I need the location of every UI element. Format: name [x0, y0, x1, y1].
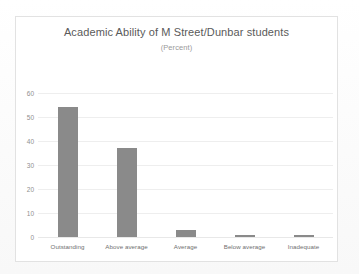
x-axis-labels: OutstandingAbove averageAverageBelow ave…	[38, 243, 333, 250]
x-axis-label: Below average	[215, 243, 274, 250]
y-axis-tick-label: 40	[27, 138, 34, 145]
y-axis-tick-label: 30	[27, 162, 34, 169]
x-axis-label: Outstanding	[38, 243, 97, 250]
y-axis-tick-label: 10	[27, 210, 34, 217]
y-axis-tick-label: 20	[27, 186, 34, 193]
bar-series	[38, 93, 333, 237]
chart-subtitle: (Percent)	[16, 43, 337, 52]
bar-average	[176, 230, 196, 237]
bar-inadequate	[294, 235, 314, 237]
chart-frame: Academic Ability of M Street/Dunbar stud…	[15, 16, 338, 262]
bar-slot	[97, 93, 156, 237]
y-axis-tick-label: 50	[27, 114, 34, 121]
bar-above-average	[117, 148, 137, 237]
x-axis-label: Above average	[97, 243, 156, 250]
x-axis-label: Inadequate	[274, 243, 333, 250]
chart-page: Academic Ability of M Street/Dunbar stud…	[0, 0, 359, 274]
plot-area: 0102030405060	[38, 93, 333, 237]
bar-outstanding	[58, 107, 78, 237]
chart-title-block: Academic Ability of M Street/Dunbar stud…	[16, 25, 337, 52]
bar-slot	[156, 93, 215, 237]
bar-slot	[38, 93, 97, 237]
bar-slot	[215, 93, 274, 237]
bar-below-average	[235, 235, 255, 237]
y-axis-tick-label: 0	[30, 234, 34, 241]
gridline-0: 0	[38, 237, 333, 238]
chart-title: Academic Ability of M Street/Dunbar stud…	[16, 25, 337, 40]
x-axis-label: Average	[156, 243, 215, 250]
bar-slot	[274, 93, 333, 237]
y-axis-tick-label: 60	[27, 90, 34, 97]
